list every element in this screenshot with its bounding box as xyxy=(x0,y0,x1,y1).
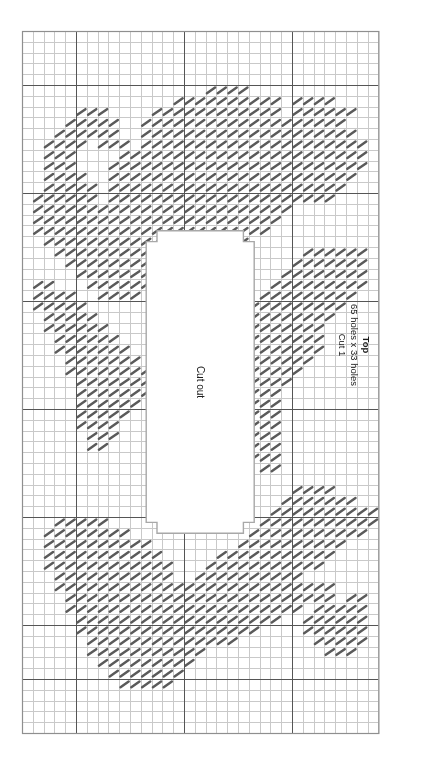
stitch-chart-canvas xyxy=(0,0,441,761)
